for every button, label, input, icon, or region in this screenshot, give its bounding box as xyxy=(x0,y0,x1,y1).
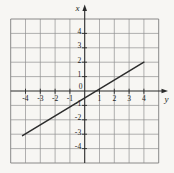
axes xyxy=(11,5,168,164)
vertical-tick-label: -3 xyxy=(75,128,82,137)
origin-label: 0 xyxy=(79,82,83,91)
horizontal-tick-label: 1 xyxy=(98,94,102,103)
vertical-tick-label: 3 xyxy=(77,41,81,50)
vertical-axis-label: x xyxy=(75,3,80,13)
coordinate-plane: -4-3-2-11234-4-3-2-11234 0 x y xyxy=(0,0,174,173)
horizontal-tick-label: -4 xyxy=(22,94,29,103)
horizontal-tick-label: 3 xyxy=(127,94,131,103)
vertical-tick-label: -2 xyxy=(75,113,82,122)
horizontal-tick-label: 4 xyxy=(142,94,146,103)
horizontal-tick-label: 2 xyxy=(112,94,116,103)
horizontal-tick-label: -3 xyxy=(37,94,44,103)
vertical-tick-label: 2 xyxy=(77,56,81,65)
horizontal-tick-label: -1 xyxy=(67,94,74,103)
vertical-tick-label: -4 xyxy=(75,142,82,151)
horizontal-axis-label: y xyxy=(164,94,169,104)
vertical-tick-label: 1 xyxy=(77,70,81,79)
vertical-tick-label: 4 xyxy=(77,27,81,36)
graph-figure: -4-3-2-11234-4-3-2-11234 0 x y xyxy=(0,0,174,173)
horizontal-tick-label: -2 xyxy=(52,94,59,103)
up-arrow-icon xyxy=(82,5,87,12)
